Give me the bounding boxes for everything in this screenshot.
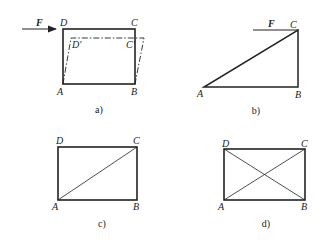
vertex-label-d: D	[221, 138, 230, 149]
vertex-label-a: A	[217, 201, 225, 212]
vertex-label-a: A	[196, 88, 204, 99]
vertex-label-a: A	[56, 86, 64, 97]
caption-d: d)	[262, 218, 270, 230]
vertex-label-b: B	[133, 201, 139, 212]
vertex-label-c: C	[131, 17, 138, 28]
vertex-label-d-prime: D'	[71, 39, 82, 50]
vertex-label-b: B	[301, 201, 307, 212]
vertex-label-a: A	[51, 201, 59, 212]
vertex-label-d: D	[55, 135, 64, 146]
diagonal-ac	[58, 147, 137, 200]
diagram-canvas: F D C D' C' A B a) F C A B b) D C A B c)…	[0, 0, 325, 245]
vertex-label-c: C	[290, 19, 297, 30]
force-label: F	[35, 17, 43, 28]
vertex-label-b: B	[295, 89, 301, 100]
figure-d: D C A B d)	[217, 138, 308, 230]
rectangle-abcd	[63, 29, 135, 84]
triangle-abc	[204, 30, 298, 87]
caption-a: a)	[95, 104, 103, 116]
vertex-label-c: C	[133, 135, 140, 146]
caption-c: c)	[98, 218, 106, 230]
figure-b: F C A B b)	[196, 18, 301, 117]
figure-a: F D C D' C' A B a)	[22, 17, 144, 116]
vertex-label-d: D	[59, 17, 68, 28]
caption-b: b)	[252, 105, 260, 117]
vertex-label-c: C	[301, 138, 308, 149]
figure-c: D C A B c)	[51, 135, 140, 230]
force-label: F	[267, 18, 275, 29]
vertex-label-b: B	[131, 86, 137, 97]
vertex-label-c-prime: C'	[126, 39, 136, 50]
